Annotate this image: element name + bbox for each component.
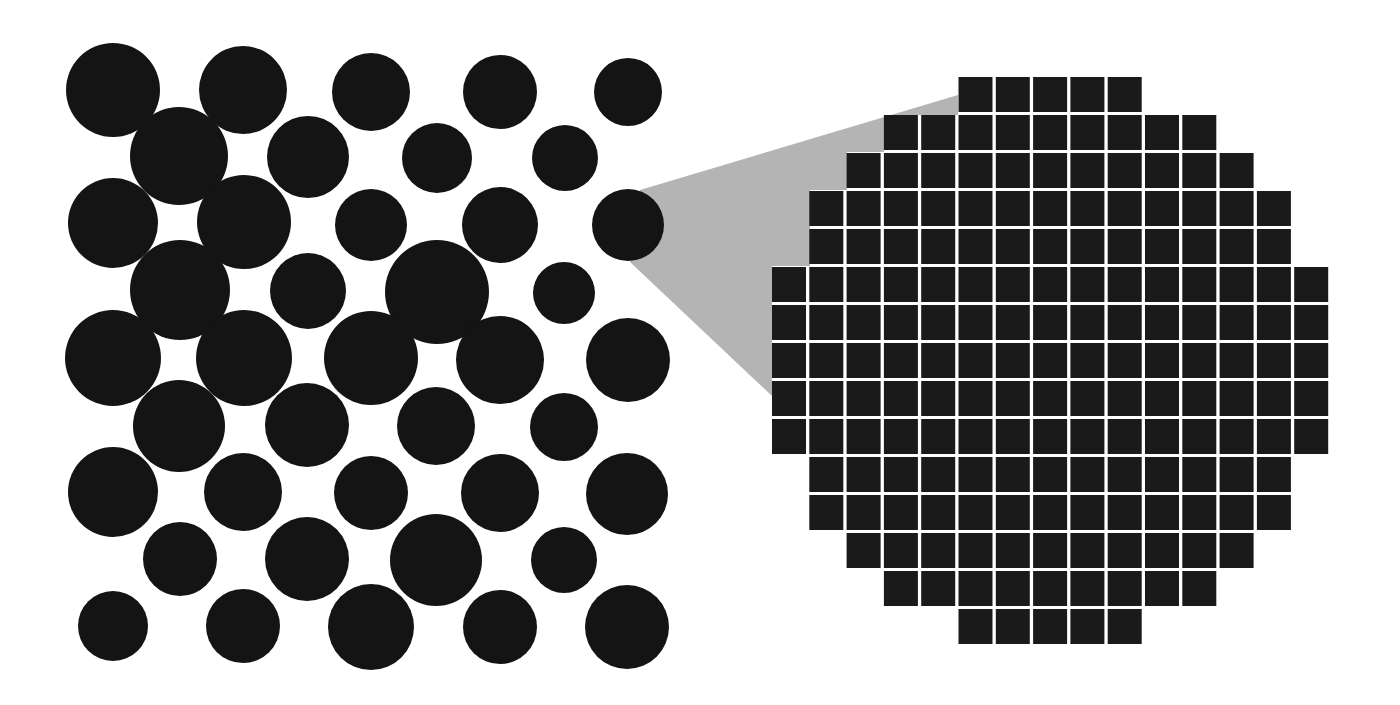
pixel-cell bbox=[1145, 267, 1179, 302]
pixel-cell bbox=[1294, 305, 1328, 340]
circle bbox=[332, 53, 410, 131]
pixel-cell bbox=[921, 343, 955, 378]
pixel-cell bbox=[1145, 381, 1179, 416]
pixel-cell bbox=[996, 381, 1030, 416]
pixel-cell bbox=[1033, 229, 1067, 264]
pixel-cell bbox=[1108, 115, 1142, 150]
pixel-cell bbox=[884, 229, 918, 264]
pixel-cell bbox=[1108, 153, 1142, 188]
pixel-cell bbox=[809, 343, 843, 378]
pixel-cell bbox=[1145, 191, 1179, 226]
circle bbox=[463, 590, 537, 664]
pixel-cell bbox=[959, 77, 993, 112]
pixel-cell bbox=[996, 343, 1030, 378]
pixel-cell bbox=[959, 153, 993, 188]
circle bbox=[585, 585, 669, 669]
pixel-cell bbox=[1033, 153, 1067, 188]
pixel-cell bbox=[772, 305, 806, 340]
circle bbox=[267, 116, 349, 198]
pixel-cell bbox=[1182, 191, 1216, 226]
pixel-cell bbox=[1182, 419, 1216, 454]
pixel-cell bbox=[921, 305, 955, 340]
pixel-cell bbox=[921, 457, 955, 492]
pixel-cell bbox=[772, 381, 806, 416]
pixel-cell bbox=[1033, 267, 1067, 302]
pixel-cell bbox=[1108, 609, 1142, 644]
pixel-cell bbox=[959, 533, 993, 568]
pixel-cell bbox=[1182, 305, 1216, 340]
pixel-cell bbox=[1182, 457, 1216, 492]
pixel-cell bbox=[809, 381, 843, 416]
pixel-cell bbox=[1257, 381, 1291, 416]
pixel-cell bbox=[1220, 533, 1254, 568]
pixel-cell bbox=[959, 457, 993, 492]
pixel-cell bbox=[1108, 343, 1142, 378]
pixel-cell bbox=[1070, 153, 1104, 188]
circle bbox=[270, 253, 346, 329]
pixel-cell bbox=[1070, 609, 1104, 644]
pixel-cell bbox=[1108, 191, 1142, 226]
pixel-cell bbox=[996, 229, 1030, 264]
pixel-cell bbox=[1257, 343, 1291, 378]
pixel-cell bbox=[1108, 571, 1142, 606]
pixel-cell bbox=[1294, 267, 1328, 302]
pixel-cell bbox=[1108, 229, 1142, 264]
pixel-cell bbox=[1070, 229, 1104, 264]
pixel-cell bbox=[1033, 457, 1067, 492]
pixel-cell bbox=[1294, 343, 1328, 378]
pixel-cell bbox=[847, 153, 881, 188]
pixel-cell bbox=[959, 343, 993, 378]
pixel-cell bbox=[996, 533, 1030, 568]
pixel-cell bbox=[996, 191, 1030, 226]
pixel-cell bbox=[921, 153, 955, 188]
pixel-cell bbox=[884, 191, 918, 226]
pixel-cell bbox=[959, 609, 993, 644]
pixel-cell bbox=[847, 457, 881, 492]
pixel-cell bbox=[959, 571, 993, 606]
pixel-cell bbox=[996, 495, 1030, 530]
pixel-cell bbox=[1108, 77, 1142, 112]
pixel-cell bbox=[1220, 229, 1254, 264]
pixel-cell bbox=[884, 419, 918, 454]
pixel-cell bbox=[1108, 457, 1142, 492]
pixel-cell bbox=[1070, 305, 1104, 340]
pixel-cell bbox=[884, 495, 918, 530]
pixel-cell bbox=[884, 343, 918, 378]
pixel-cell bbox=[884, 115, 918, 150]
pixel-cell bbox=[996, 115, 1030, 150]
pixel-cell bbox=[1182, 115, 1216, 150]
pixel-cell bbox=[1070, 419, 1104, 454]
pixel-cell bbox=[959, 495, 993, 530]
pixel-cell bbox=[1257, 419, 1291, 454]
pixel-cell bbox=[809, 191, 843, 226]
pixel-cell bbox=[1145, 495, 1179, 530]
pixel-cell bbox=[1145, 571, 1179, 606]
circle bbox=[68, 447, 158, 537]
pixel-cell bbox=[1257, 267, 1291, 302]
pixel-cell bbox=[959, 191, 993, 226]
pixel-cell bbox=[809, 419, 843, 454]
circle-field bbox=[65, 43, 670, 670]
circle bbox=[133, 380, 225, 472]
pixel-cell bbox=[1108, 419, 1142, 454]
pixel-cell bbox=[884, 457, 918, 492]
circle bbox=[265, 517, 349, 601]
circle bbox=[594, 58, 662, 126]
pixel-cell bbox=[1145, 457, 1179, 492]
pixel-cell bbox=[921, 571, 955, 606]
pixel-cell bbox=[1257, 305, 1291, 340]
pixel-cell bbox=[921, 381, 955, 416]
pixel-cell bbox=[921, 267, 955, 302]
pixel-cell bbox=[1033, 533, 1067, 568]
pixel-cell bbox=[959, 305, 993, 340]
pixel-cell bbox=[1070, 267, 1104, 302]
circle bbox=[390, 514, 482, 606]
pixel-cell bbox=[959, 419, 993, 454]
pixel-cell bbox=[1257, 191, 1291, 226]
circle bbox=[456, 316, 544, 404]
pixel-cell bbox=[1220, 419, 1254, 454]
pixel-cell bbox=[996, 305, 1030, 340]
pixel-cell bbox=[959, 267, 993, 302]
pixel-cell bbox=[772, 267, 806, 302]
circle bbox=[586, 318, 670, 402]
